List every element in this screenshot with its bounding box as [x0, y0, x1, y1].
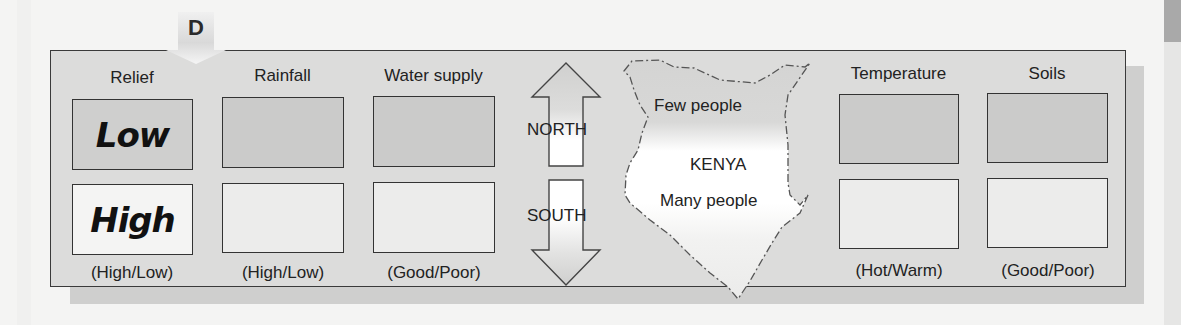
tab-pointer-icon — [166, 40, 226, 66]
relief-north-answer: Low — [73, 100, 192, 169]
south-label: SOUTH — [527, 206, 587, 226]
temperature-options: (Hot/Warm) — [836, 261, 962, 281]
temperature-south-answer — [840, 180, 958, 248]
rainfall-north-answer-box[interactable] — [222, 97, 344, 168]
water-supply-south-answer — [374, 183, 494, 252]
soils-north-answer-box[interactable] — [987, 93, 1108, 163]
south-arrow-icon — [528, 177, 604, 289]
temperature-north-answer — [840, 95, 958, 163]
water-supply-north-answer — [374, 97, 494, 166]
relief-south-answer-box[interactable]: High — [72, 184, 193, 255]
north-arrow-icon — [528, 60, 604, 170]
kenya-map-outline — [610, 55, 825, 305]
column-title-temperature: Temperature — [829, 64, 968, 84]
rainfall-north-answer — [223, 98, 343, 167]
relief-options: (High/Low) — [66, 263, 198, 283]
page-edge-strip — [1164, 0, 1181, 325]
map-label-kenya: KENYA — [690, 155, 746, 175]
rainfall-south-answer — [223, 184, 343, 252]
water-supply-options: (Good/Poor) — [365, 263, 503, 283]
column-title-relief: Relief — [72, 68, 192, 88]
water-supply-south-answer-box[interactable] — [373, 182, 495, 253]
column-title-rainfall: Rainfall — [222, 66, 343, 86]
column-title-soils: Soils — [987, 64, 1107, 84]
rainfall-options: (High/Low) — [217, 263, 349, 283]
soils-south-answer — [988, 179, 1107, 247]
page-margin-left — [17, 0, 31, 325]
map-label-many-people: Many people — [660, 191, 757, 211]
relief-south-answer: High — [73, 185, 192, 254]
north-label: NORTH — [527, 120, 587, 140]
relief-north-answer-box[interactable]: Low — [72, 99, 193, 170]
rainfall-south-answer-box[interactable] — [222, 183, 344, 253]
temperature-north-answer-box[interactable] — [839, 94, 959, 164]
soils-south-answer-box[interactable] — [987, 178, 1108, 248]
temperature-south-answer-box[interactable] — [839, 179, 959, 249]
soils-north-answer — [988, 94, 1107, 162]
column-title-water-supply: Water supply — [363, 66, 504, 86]
water-supply-north-answer-box[interactable] — [373, 96, 495, 167]
soils-options: (Good/Poor) — [984, 261, 1112, 281]
map-label-few-people: Few people — [654, 96, 742, 116]
